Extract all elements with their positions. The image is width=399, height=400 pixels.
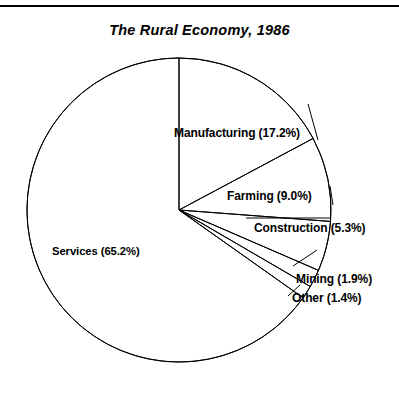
slice-label-other: Other (1.4%) xyxy=(292,291,361,305)
pie-slice-group xyxy=(27,58,331,362)
slice-label-manufacturing: Manufacturing (17.2%) xyxy=(174,126,300,140)
pie-slice-construction xyxy=(179,210,331,270)
pie-slice-farming xyxy=(179,138,331,221)
leader-line-manufacturing xyxy=(308,104,318,140)
slice-label-mining: Mining (1.9%) xyxy=(296,272,372,286)
leader-line-mining xyxy=(293,250,317,266)
pie-slice-services xyxy=(27,58,303,362)
slice-label-construction: Construction (5.3%) xyxy=(254,221,365,235)
pie-svg xyxy=(0,0,399,400)
slice-label-services: Services (65.2%) xyxy=(52,245,140,257)
pie-chart-figure: The Rural Economy, 1986 Services (65.2%)… xyxy=(0,0,399,400)
slice-label-farming: Farming (9.0%) xyxy=(227,189,312,203)
